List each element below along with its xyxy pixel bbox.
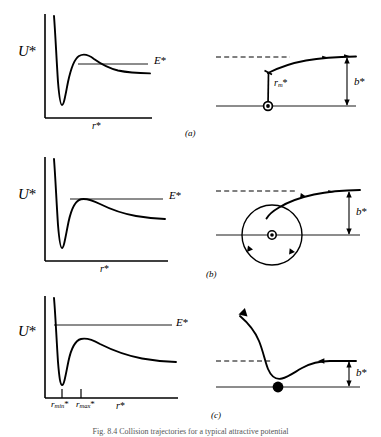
scatterer-center-dot: [273, 382, 284, 393]
panel-a-energy-label: E*: [154, 55, 166, 66]
impact-arrow-up: [344, 57, 349, 63]
panel-b-potential-plot: [45, 157, 168, 261]
effective-potential-curve: [54, 159, 165, 248]
impact-arrow-down: [344, 99, 349, 105]
figure-container: U* r* E* rm* b* (a): [0, 0, 381, 437]
panel-a-potential-plot: [45, 14, 152, 118]
panel-b-energy-label: E*: [169, 190, 181, 201]
panel-c-y-axis-label: U*: [18, 324, 36, 339]
scatterer-center-dot: [270, 233, 274, 237]
panel-c-trajectory-plot: [216, 308, 360, 393]
panel-b-tag: (b): [206, 269, 217, 279]
panel-b-x-axis-label: r*: [100, 264, 109, 274]
trajectory-curve: [240, 316, 356, 379]
orbit-arrow-left: [247, 246, 253, 252]
panel-c: U* r* E* rmin* rmax* b* (c): [0, 286, 381, 426]
impact-arrow-up: [346, 191, 351, 197]
scatterer-center-dot: [266, 104, 270, 108]
effective-potential-curve: [54, 16, 150, 105]
panel-c-impact-parameter-label: b*: [356, 367, 367, 378]
panel-b-impact-parameter-label: b*: [356, 206, 367, 217]
panel-a: U* r* E* rm* b* (a): [0, 0, 381, 140]
panel-a-tag: (a): [185, 128, 196, 138]
figure-caption: Fig. 8.4 Collision trajectories for a ty…: [0, 427, 381, 436]
panel-a-closest-approach-label: rm*: [274, 78, 288, 89]
panel-c-energy-label: E*: [176, 317, 188, 328]
panel-b-graphics: [0, 143, 381, 283]
panel-b: U* r* E* b* (b): [0, 143, 381, 283]
trajectory-curve: [268, 57, 356, 74]
orbit-arrow-right: [289, 248, 295, 254]
panel-a-impact-parameter-label: b*: [354, 76, 365, 87]
panel-b-trajectory-plot: [216, 190, 360, 265]
panel-a-graphics: [0, 0, 381, 140]
panel-c-x-axis-label: r*: [116, 401, 125, 411]
impact-arrow-down: [346, 381, 351, 387]
impact-arrow-up: [346, 361, 351, 367]
impact-arrow-down: [346, 228, 351, 234]
panel-b-y-axis-label: U*: [18, 187, 36, 202]
panel-c-rmin-tick-label: rmin*: [51, 400, 69, 410]
panel-c-rmax-tick-label: rmax*: [76, 400, 95, 410]
effective-potential-curve: [54, 298, 176, 385]
panel-c-potential-plot: [45, 296, 178, 398]
panel-a-y-axis-label: U*: [18, 44, 36, 59]
trajectory-spiral-in: [267, 190, 361, 219]
panel-c-tag: (c): [211, 410, 221, 420]
panel-a-x-axis-label: r*: [92, 121, 101, 131]
